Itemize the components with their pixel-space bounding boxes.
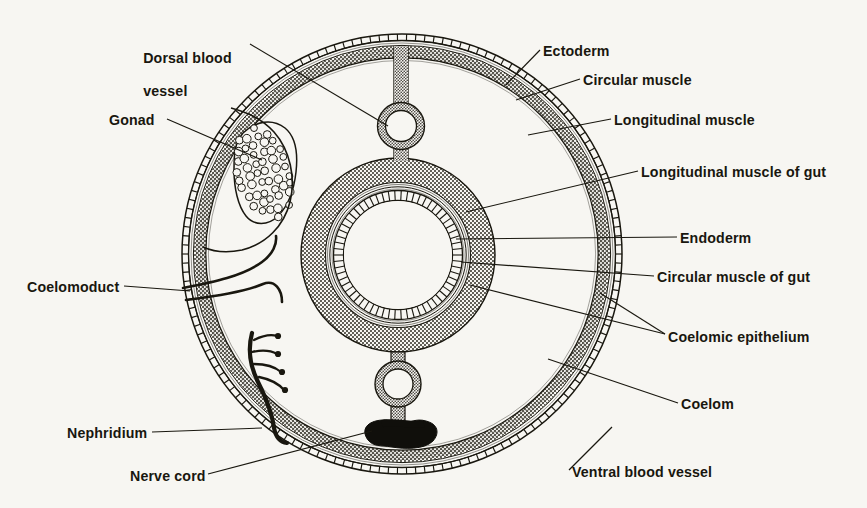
label-longitudinal-muscle: Longitudinal muscle: [614, 112, 755, 129]
dorsal-blood-vessel: [378, 103, 425, 150]
label-longitudinal-muscle-of-gut: Longitudinal muscle of gut: [641, 164, 826, 181]
label-gonad: Gonad: [109, 112, 155, 129]
label-coelomoduct: Coelomoduct: [27, 279, 119, 296]
label-endoderm: Endoderm: [680, 230, 751, 247]
label-coelomic-epithelium: Coelomic epithelium: [668, 329, 810, 346]
label-line-2: vessel: [143, 83, 187, 99]
label-nerve-cord: Nerve cord: [130, 468, 206, 485]
label-coelom: Coelom: [681, 396, 734, 413]
label-nephridium: Nephridium: [67, 425, 147, 442]
label-ectoderm: Ectoderm: [543, 43, 610, 60]
gonad: [233, 122, 297, 224]
label-line-1: Dorsal blood: [143, 50, 232, 66]
gut-lumen: [344, 201, 452, 309]
gut: [301, 158, 495, 352]
label-dorsal-blood-vessel: Dorsal blood vessel: [135, 33, 232, 100]
figure-canvas: Dorsal blood vessel Gonad Coelomoduct Ne…: [0, 0, 867, 508]
nerve-cord: [365, 420, 437, 449]
ventral-blood-vessel: [375, 361, 421, 407]
label-circular-muscle-of-gut: Circular muscle of gut: [657, 269, 810, 286]
label-circular-muscle: Circular muscle: [583, 72, 692, 89]
label-ventral-blood-vessel: Ventral blood vessel: [572, 464, 712, 481]
